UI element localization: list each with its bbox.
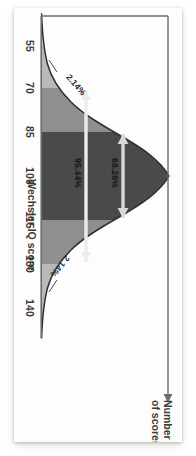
y-axis-title: Number of scores <box>150 400 174 442</box>
distribution-chart-svg <box>14 8 182 442</box>
plot-area: 55 70 85 100 115 130 140 Wechsler IQ sco… <box>14 8 182 442</box>
x-tick-140: 140 <box>24 299 36 317</box>
x-tick-55: 55 <box>24 40 36 52</box>
band-above-130 <box>42 264 182 324</box>
y-axis-title-line2: of scores <box>150 400 162 442</box>
x-tick-85: 85 <box>24 126 36 138</box>
label-two-sd-pct: 95.44% <box>73 158 83 188</box>
band-tail-right <box>42 324 182 354</box>
x-axis-title: Wechsler IQ score <box>26 179 38 270</box>
label-one-sd-pct: 68.26% <box>110 158 120 188</box>
x-tick-70: 70 <box>24 82 36 94</box>
band-below-70 <box>42 46 182 88</box>
band-tail-left <box>42 8 182 46</box>
band-70-85 <box>42 88 182 132</box>
rotated-plot-stage: 55 70 85 100 115 130 140 Wechsler IQ sco… <box>14 8 182 442</box>
figure-card: 55 70 85 100 115 130 140 Wechsler IQ sco… <box>14 8 182 442</box>
y-axis-title-line1: Number <box>162 400 174 442</box>
